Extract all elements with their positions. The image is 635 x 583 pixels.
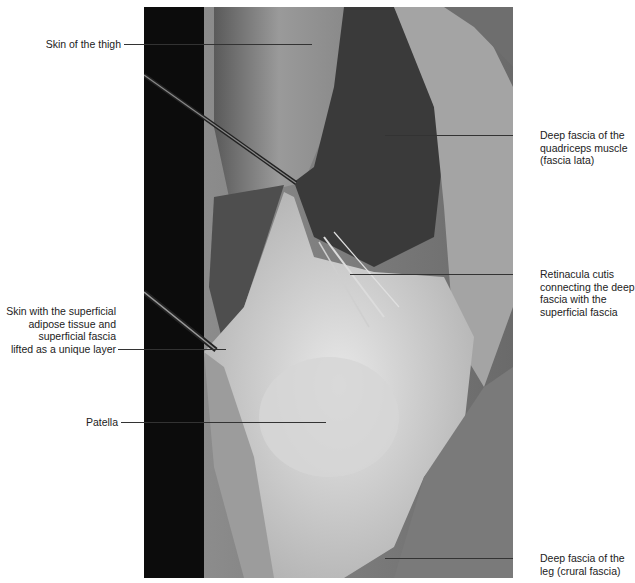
dissection-photo-graphic	[144, 7, 513, 578]
dissection-photo	[144, 7, 513, 578]
label-skin-layer: Skin with the superficial adipose tissue…	[6, 305, 116, 355]
leader-deep-fascia-quadriceps	[385, 135, 513, 136]
label-deep-fascia-leg: Deep fascia of the leg (crural fascia)	[540, 552, 625, 577]
label-retinacula-cutis: Retinacula cutis connecting the deep fas…	[540, 268, 635, 318]
label-patella: Patella	[86, 416, 118, 429]
leader-deep-fascia-leg	[385, 558, 513, 559]
label-deep-fascia-quadriceps: Deep fascia of the quadriceps muscle (fa…	[540, 129, 628, 167]
leader-retinacula-cutis	[350, 274, 513, 275]
leader-patella	[121, 422, 326, 423]
leader-skin-layer	[118, 349, 226, 350]
label-skin-thigh: Skin of the thigh	[46, 38, 121, 51]
leader-skin-thigh	[124, 44, 312, 45]
